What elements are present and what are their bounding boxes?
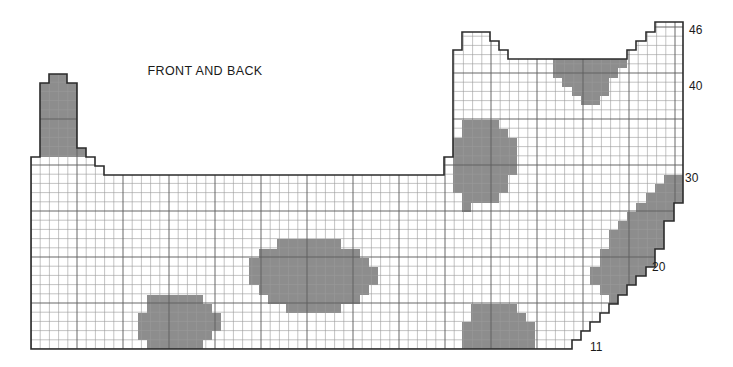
row-label-30: 30 — [685, 171, 699, 185]
chart-title: FRONT AND BACK — [147, 64, 262, 78]
row-label-46: 46 — [689, 23, 703, 37]
motif-center — [249, 239, 378, 313]
row-label-40: 40 — [689, 79, 703, 93]
chart-canvas: FRONT AND BACK 4640302011 — [0, 0, 733, 367]
row-label-20: 20 — [652, 260, 666, 274]
knitting-chart: FRONT AND BACK 4640302011 — [0, 0, 733, 367]
row-label-11: 11 — [590, 340, 603, 354]
